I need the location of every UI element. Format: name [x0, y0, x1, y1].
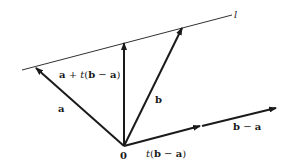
vector-b-label: b [155, 94, 162, 105]
origin-label: 0 [120, 150, 127, 161]
line-l [22, 15, 232, 70]
vector-diagram: l a a + t(b − a) b t(b − a) b − a 0 [0, 0, 293, 168]
line-l-label: l [234, 9, 237, 20]
scaled-difference-arrow [124, 126, 200, 146]
scaled-difference-label: t(b − a) [146, 148, 186, 159]
difference-label: b − a [233, 121, 262, 132]
vector-a-label: a [58, 103, 65, 114]
point-on-line-label: a + t(b − a) [59, 69, 120, 80]
vector-b-arrow [124, 28, 182, 146]
